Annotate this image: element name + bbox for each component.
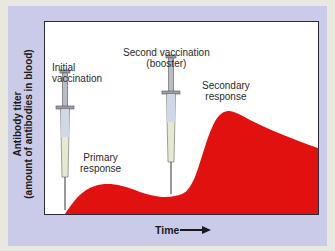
second-vaccination-line2: (booster): [123, 58, 210, 69]
initial-vaccination-line1: Initial: [52, 62, 102, 73]
primary-response-line2: response: [80, 163, 121, 174]
secondary-response-label: Secondary response: [202, 80, 250, 102]
primary-response-line1: Primary: [80, 152, 121, 163]
y-axis-label-line1: Antibody titer: [12, 49, 23, 199]
right-arrow-icon: [180, 225, 212, 235]
secondary-response-line2: response: [202, 91, 250, 102]
second-vaccination-label: Second vaccination (booster): [123, 47, 210, 69]
y-axis-label: Antibody titer (amount of antibodies in …: [12, 49, 34, 199]
primary-response-label: Primary response: [80, 152, 121, 174]
syringe-icon-initial: [56, 70, 74, 210]
secondary-response-line1: Secondary: [202, 80, 250, 91]
plot-area: Initial vaccination Second vaccination (…: [44, 21, 319, 215]
syringe-icon-booster: [162, 55, 180, 194]
x-axis-label: Time: [155, 224, 179, 236]
initial-vaccination-line2: vaccination: [52, 73, 102, 84]
second-vaccination-line1: Second vaccination: [123, 47, 210, 58]
initial-vaccination-label: Initial vaccination: [52, 62, 102, 84]
y-axis-label-line2: (amount of antibodies in blood): [23, 49, 34, 199]
